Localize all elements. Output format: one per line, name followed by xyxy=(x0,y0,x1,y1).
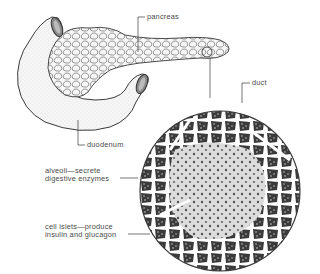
label-duct: duct xyxy=(252,79,267,87)
label-pancreas: pancreas xyxy=(147,13,179,21)
label-islets-line2: insulin and glucagon xyxy=(45,231,116,239)
label-alveoli-line2: digestive enzymes xyxy=(45,175,109,183)
label-duodenum: duodenum xyxy=(87,141,124,149)
